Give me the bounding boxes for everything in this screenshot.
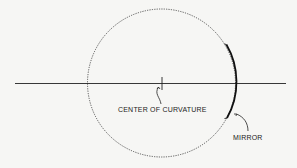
center-pointer-arrow bbox=[157, 87, 161, 104]
mirror-pointer-arrow bbox=[234, 114, 248, 131]
diagram-graphic bbox=[0, 0, 297, 168]
concave-mirror-diagram: CENTER OF CURVATURE MIRROR bbox=[0, 0, 297, 168]
mirror-arc bbox=[226, 45, 236, 119]
mirror-label: MIRROR bbox=[233, 134, 263, 141]
mirror-end-ticks bbox=[224, 44, 227, 119]
center-of-curvature-label: CENTER OF CURVATURE bbox=[118, 106, 207, 113]
curvature-circle bbox=[88, 9, 236, 157]
